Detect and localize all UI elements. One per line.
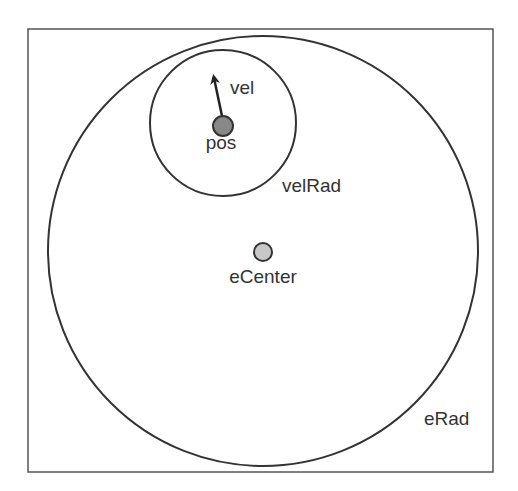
label-ecenter: eCenter: [229, 266, 297, 287]
diagram-canvas: vel pos velRad eCenter eRad: [0, 0, 518, 491]
ecenter-point: [254, 243, 272, 261]
label-pos: pos: [206, 132, 237, 153]
label-velrad: velRad: [282, 175, 341, 196]
label-erad: eRad: [424, 408, 469, 429]
label-vel: vel: [230, 77, 254, 98]
velocity-arrow-icon: [214, 78, 222, 116]
